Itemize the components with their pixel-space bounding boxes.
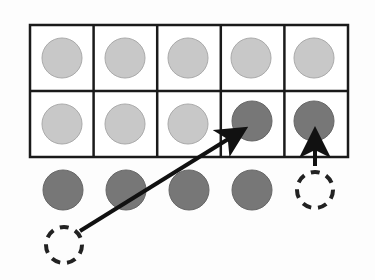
counter-r1c5	[294, 38, 334, 78]
counter-r1c2	[105, 38, 145, 78]
counter-r2c5	[294, 101, 334, 141]
counter-r2c1	[42, 104, 82, 144]
ten-frame-diagram	[0, 0, 375, 280]
outside-counters	[43, 170, 333, 263]
outside-counter-3	[169, 170, 209, 210]
empty-dashed-slot-right	[297, 172, 333, 208]
counter-r2c2	[105, 104, 145, 144]
outside-counter-1	[43, 170, 83, 210]
outside-counter-4	[232, 170, 272, 210]
counter-r1c3	[168, 38, 208, 78]
empty-dashed-slot-bottom-left	[46, 227, 82, 263]
counter-r1c4	[231, 38, 271, 78]
counter-r2c3	[168, 104, 208, 144]
counter-r1c1	[42, 38, 82, 78]
